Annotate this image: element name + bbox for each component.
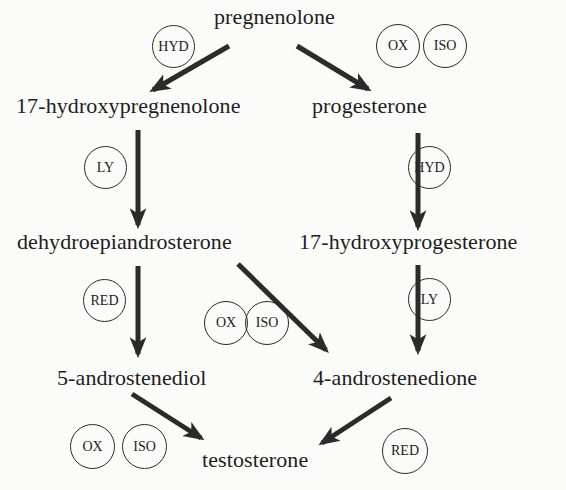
- compound-pregnenolone: pregnenolone: [214, 4, 335, 30]
- enzyme-reductase-badge: RED: [83, 279, 126, 322]
- enzyme-hydroxylase-badge: HYD: [152, 25, 195, 68]
- enzyme-oxidase-badge: OX: [204, 301, 248, 345]
- enzyme-isomerase-badge: ISO: [423, 24, 467, 68]
- compound-17-hydroxyprogesterone: 17-hydroxyprogesterone: [299, 229, 517, 255]
- enzyme-reductase-badge: RED: [382, 428, 428, 474]
- enzyme-hydroxylase-badge: HYD: [408, 146, 451, 189]
- compound-4-androstenedione: 4-androstenedione: [313, 365, 477, 391]
- enzyme-lyase-badge: LY: [408, 278, 451, 321]
- compound-17-hydroxypregnenolone: 17-hydroxypregnenolone: [16, 93, 241, 119]
- compound-progesterone: progesterone: [312, 93, 427, 119]
- steroid-pathway-diagram: pregnenolone 17-hydroxypregnenolone prog…: [0, 0, 566, 490]
- enzyme-isomerase-badge: ISO: [122, 424, 167, 469]
- arrow-androstenedione-to-testosterone: [322, 398, 391, 443]
- compound-5-androstenediol: 5-androstenediol: [57, 365, 206, 391]
- enzyme-oxidase-badge: OX: [376, 24, 420, 68]
- enzyme-lyase-badge: LY: [84, 146, 127, 189]
- enzyme-isomerase-badge: ISO: [245, 301, 289, 345]
- arrow-pregnenolone-to-progesterone: [297, 46, 368, 89]
- compound-dehydroepiandrosterone: dehydroepiandrosterone: [17, 229, 232, 255]
- enzyme-oxidase-badge: OX: [70, 424, 115, 469]
- compound-testosterone: testosterone: [202, 447, 308, 473]
